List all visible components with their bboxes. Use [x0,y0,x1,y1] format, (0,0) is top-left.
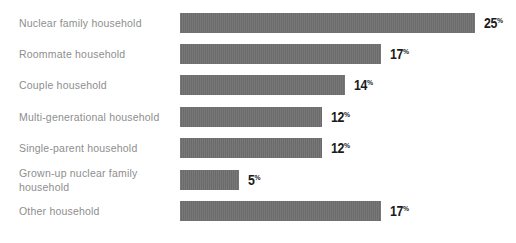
value-label: 25% [484,15,503,31]
chart-row: Other household17% [0,195,516,226]
value-label: 14% [354,77,373,93]
category-label: Roommate household [0,47,180,61]
chart-row: Single-parent household12% [0,133,516,164]
value-label: 12% [331,109,350,125]
category-label: Single-parent household [0,141,180,155]
percent-sign: % [344,141,350,150]
bar-area: 14% [180,75,516,95]
chart-row: Roommate household17% [0,38,516,69]
category-label: Nuclear family household [0,16,180,30]
bar-area: 25% [180,13,516,33]
chart-rows: Nuclear family household25%Roommate hous… [0,7,516,227]
chart-row: Multi-generational household12% [0,101,516,132]
bar [180,138,322,158]
value-number: 25 [484,15,497,31]
bar-area: 17% [180,44,516,64]
value-label: 5% [248,172,261,188]
bar [180,170,239,190]
value-number: 12 [331,140,344,156]
chart-row: Nuclear family household25% [0,7,516,38]
bar-area: 17% [180,201,516,221]
percent-sign: % [403,47,409,56]
bar-area: 5% [180,170,516,190]
value-number: 5 [248,172,255,188]
bar-area: 12% [180,107,516,127]
value-number: 14 [354,77,367,93]
chart-row: Grown-up nuclear family household5% [0,164,516,195]
bar [180,75,345,95]
percent-sign: % [367,78,373,87]
value-label: 17% [390,46,409,62]
household-bar-chart: Nuclear family household25%Roommate hous… [0,0,516,243]
value-number: 12 [331,109,344,125]
category-label: Grown-up nuclear family household [0,166,180,194]
category-label: Multi-generational household [0,110,180,124]
bar [180,107,322,127]
percent-sign: % [255,173,261,182]
bar [180,44,381,64]
percent-sign: % [344,110,350,119]
value-label: 17% [390,203,409,219]
value-number: 17 [390,203,403,219]
category-label: Other household [0,204,180,218]
value-label: 12% [331,140,350,156]
percent-sign: % [497,16,503,25]
percent-sign: % [403,204,409,213]
bar [180,13,475,33]
category-label: Couple household [0,78,180,92]
bar-area: 12% [180,138,516,158]
chart-row: Couple household14% [0,70,516,101]
bar [180,201,381,221]
value-number: 17 [390,46,403,62]
